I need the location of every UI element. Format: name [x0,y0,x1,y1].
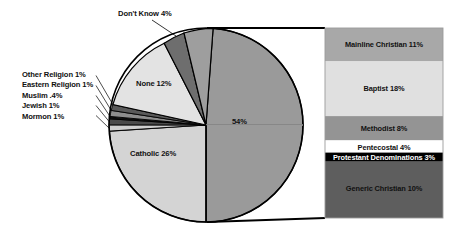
thin-slice-label-group: Other Religion 1% Eastern Religion 1% Mu… [22,70,93,122]
label-eastern-religion: Eastern Religion 1% [22,80,93,90]
label-protestant-christian-total: 54% [232,117,247,126]
label-jewish: Jewish 1% [22,101,93,111]
bar-label-mainline-christian: Mainline Christian 11% [325,40,443,49]
label-other-religion: Other Religion 1% [22,70,93,80]
label-mormon: Mormon 1% [22,112,93,122]
bar-label-baptist: Baptist 18% [325,84,443,93]
label-none: None 12% [136,79,172,88]
label-muslim: Muslim .4% [22,91,93,101]
label-catholic: Catholic 26% [130,149,176,158]
bar-label-methodist: Methodist 8% [325,124,443,133]
chart-canvas: Other Religion 1% Eastern Religion 1% Mu… [0,0,456,240]
label-dont-know: Don't Know 4% [118,9,172,18]
bar-label-protestant-denominations: Protestant Denominations 3% [325,153,443,162]
bar-label-generic-christian: Generic Christian 10% [325,184,443,193]
bar-label-pentecostal: Pentecostal 4% [325,143,443,152]
